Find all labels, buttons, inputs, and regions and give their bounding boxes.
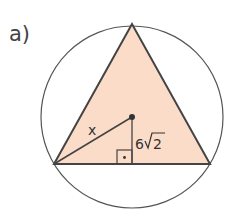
right-angle-dot (123, 156, 126, 159)
apothem-label-number: 6 (135, 136, 144, 152)
center-point (129, 114, 135, 120)
radius-label: x (88, 122, 96, 138)
apothem-label-radicand: 2 (153, 136, 162, 152)
geometry-figure: x 6 2 (0, 0, 236, 217)
